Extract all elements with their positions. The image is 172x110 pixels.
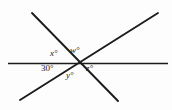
angle-label-w: w° (70, 46, 80, 55)
geometry-figure: x° w° 30° y° z° (0, 0, 172, 110)
angle-label-y: y° (66, 71, 74, 80)
angle-label-x: x° (50, 49, 58, 58)
angle-label-z: z° (86, 64, 93, 73)
geometry-line-drawing (0, 0, 172, 110)
line-northwest-southeast (32, 13, 118, 101)
line-southwest-northeast (20, 13, 158, 100)
angle-label-30-degrees: 30° (41, 64, 54, 73)
